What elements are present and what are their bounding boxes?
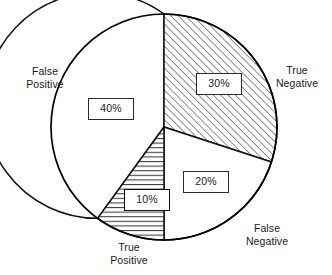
- slice-label-false-negative: False Negative: [228, 222, 306, 247]
- slice-value-true-positive: 10%: [124, 189, 170, 211]
- slice-value-false-negative: 20%: [183, 171, 229, 193]
- slice-label-true-positive: True Positive: [92, 241, 166, 266]
- slice-label-true-negative: True Negative: [264, 64, 330, 89]
- slice-label-false-positive: False Positive: [6, 65, 84, 90]
- slice-value-true-negative: 30%: [196, 73, 242, 95]
- slice-value-false-positive: 40%: [88, 98, 134, 120]
- pie-chart: False Positive True Negative False Negat…: [0, 0, 332, 275]
